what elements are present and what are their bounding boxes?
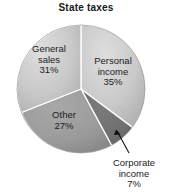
slice-value-other: 27% [40, 121, 88, 132]
slice-label-other-line1: Other [40, 110, 88, 121]
slice-label-other: Other 27% [40, 110, 88, 131]
slice-label-general-sales-line1: General [21, 44, 77, 55]
slice-label-personal-income: Personal income 35% [84, 56, 142, 88]
slice-value-corporate-income: 7% [98, 179, 170, 190]
slice-label-general-sales: General sales 31% [21, 44, 77, 76]
slice-value-personal-income: 35% [84, 77, 142, 88]
slice-value-general-sales: 31% [21, 65, 77, 76]
slice-label-corporate-income-line1: Corporate [98, 158, 170, 169]
slice-label-corporate-income: Corporate income 7% [98, 158, 170, 190]
pie-chart-figure: State taxes [0, 0, 172, 195]
slice-label-personal-income-line1: Personal [84, 56, 142, 67]
